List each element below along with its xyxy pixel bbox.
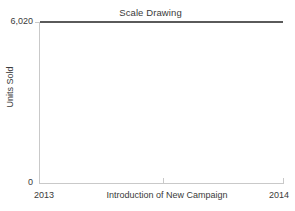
y-axis-tick-top <box>35 22 39 23</box>
x-axis-tick-right <box>283 178 284 183</box>
x-axis-tick-label-left: 2013 <box>27 190 61 200</box>
x-axis-title: Introduction of New Campaign <box>77 190 257 200</box>
x-axis-line <box>39 183 284 184</box>
y-axis-tick-label-min: 0 <box>0 177 33 187</box>
y-axis-tick-label-max: 6,020 <box>0 16 33 26</box>
data-series-line <box>40 21 283 23</box>
chart-title: Scale Drawing <box>0 7 295 18</box>
x-axis-tick-left <box>39 178 40 183</box>
y-axis-line <box>39 22 40 184</box>
y-axis-title: Units Sold <box>5 47 15 127</box>
chart-screenshot: Scale Drawing Growth rate since 2013 = 0… <box>0 0 295 211</box>
x-axis-tick-label-right: 2014 <box>262 190 295 200</box>
plot-area <box>39 22 283 183</box>
x-axis-tick-middle <box>163 178 164 183</box>
